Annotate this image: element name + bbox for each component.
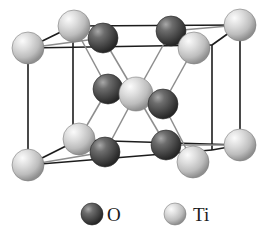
atom-o-mid-left — [93, 74, 123, 104]
legend-oxygen-label: O — [107, 204, 121, 225]
atom-o-mid-right — [148, 89, 178, 119]
crystal-structure-figure: O Ti — [0, 0, 276, 237]
atom-ti-front-top-left — [58, 10, 90, 42]
atom-ti-back-bottom-left — [12, 149, 44, 181]
atom-ti-back-top-left — [12, 32, 44, 64]
atom-o-bottom-left — [90, 137, 120, 167]
atom-ti-front-bottom-right — [224, 129, 256, 161]
atom-ti-back-top-right — [178, 32, 210, 64]
atom-ti-front-top-right — [224, 9, 256, 41]
atom-o-top-left — [88, 23, 118, 53]
tio2-unit-cell-svg: O Ti — [0, 0, 276, 237]
atom-o-bottom-right — [151, 130, 181, 160]
atom-ti-back-bottom-right — [177, 146, 209, 178]
legend-titanium-label: Ti — [193, 204, 209, 225]
legend-titanium-sphere-icon — [164, 203, 186, 225]
legend-oxygen-sphere-icon — [81, 203, 103, 225]
